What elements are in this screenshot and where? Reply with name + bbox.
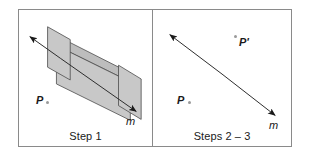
point-dot-icon xyxy=(188,101,191,104)
point-dot-icon xyxy=(46,101,49,104)
point-p-label: P xyxy=(177,94,184,106)
panel-steps-2-3: P P' m Steps 2 – 3 xyxy=(152,9,292,147)
prism-slab-icon xyxy=(48,27,142,121)
point-p-prime-label: P' xyxy=(239,36,249,48)
point-dot-icon xyxy=(234,35,237,38)
panel-step-1: P m Step 1 xyxy=(18,9,153,147)
panel-caption: Step 1 xyxy=(19,130,152,143)
double-arrow-icon xyxy=(170,35,275,116)
point-p-label: P xyxy=(36,94,43,106)
figure-container: P m Step 1 P P' m Steps 2 – 3 xyxy=(0,0,310,156)
panel-caption: Steps 2 – 3 xyxy=(153,130,291,143)
mirror-axis-label: m xyxy=(126,115,135,127)
